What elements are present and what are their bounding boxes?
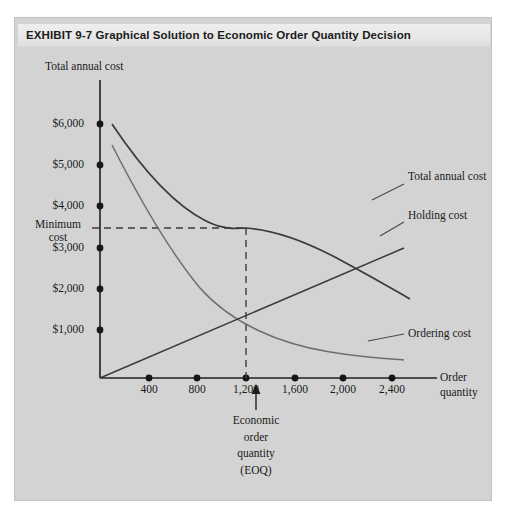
eoq-annotation-line3: quantity	[206, 445, 306, 462]
y-tick-label-6000: $6,000	[26, 117, 84, 129]
y-tick-label-5000: $5,000	[26, 158, 84, 170]
eoq-annotation: Economic order quantity (EOQ)	[206, 412, 306, 478]
x-axis-title-line1: Order	[440, 370, 502, 385]
exhibit-figure: EXHIBIT 9-7 Graphical Solution to Econom…	[0, 0, 508, 524]
minimum-cost-label-line1: Minimum	[24, 218, 92, 231]
x-tick-label-2400: 2,400	[368, 383, 416, 395]
x-tick-label-800: 800	[173, 383, 221, 395]
y-tick-label-1000: $1,000	[26, 323, 84, 335]
y-tick-label-2000: $2,000	[26, 282, 84, 294]
x-axis-title: Order quantity	[440, 370, 502, 400]
y-axis-title: Total annual cost	[45, 60, 123, 72]
eoq-annotation-line4: (EOQ)	[206, 462, 306, 479]
minimum-cost-label-line2: cost	[24, 231, 92, 244]
series-label-total-annual-cost: Total annual cost	[408, 170, 486, 182]
series-label-ordering-cost: Ordering cost	[408, 327, 471, 339]
x-axis-title-line2: quantity	[440, 385, 502, 400]
minimum-cost-label: Minimum cost	[24, 218, 92, 244]
x-tick-label-400: 400	[125, 383, 173, 395]
eoq-annotation-line1: Economic	[206, 412, 306, 429]
y-tick-label-4000: $4,000	[26, 199, 84, 211]
x-tick-label-1600: 1,600	[271, 383, 319, 395]
eoq-annotation-line2: order	[206, 429, 306, 446]
page-title: EXHIBIT 9-7 Graphical Solution to Econom…	[26, 26, 466, 45]
series-label-holding-cost: Holding cost	[408, 209, 467, 221]
x-tick-label-2000: 2,000	[319, 383, 367, 395]
x-tick-label-1200: 1,200	[222, 383, 270, 395]
